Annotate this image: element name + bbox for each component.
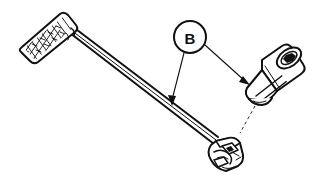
wrench-assembly-drawing: B — [0, 0, 312, 183]
technical-illustration-figure: B — [0, 0, 312, 183]
leader-to-socket-line — [205, 45, 245, 81]
callout-b[interactable]: B — [174, 21, 206, 53]
socket-to-drive-alignment — [240, 106, 255, 133]
callout-leaders — [168, 45, 250, 106]
socket-drive-end — [249, 98, 272, 105]
callout-label: B — [185, 30, 196, 47]
handle-grip — [6, 6, 79, 78]
socket — [246, 43, 305, 105]
leader-to-shaft-line — [172, 53, 184, 100]
alignment-line — [240, 106, 255, 133]
drive-head — [209, 138, 244, 171]
